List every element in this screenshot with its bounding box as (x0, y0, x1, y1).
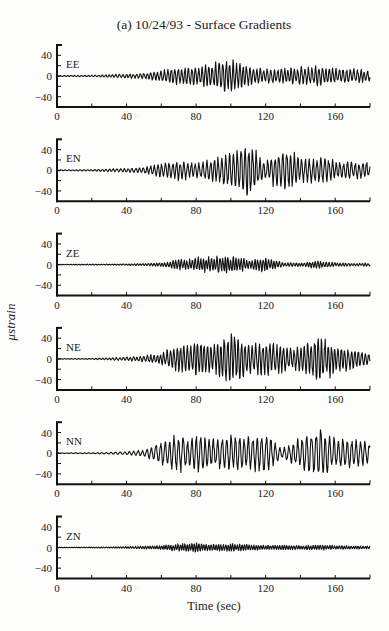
y-tick-label: 40 (41, 238, 53, 250)
y-tick-label: −40 (35, 562, 53, 574)
y-tick-label: 40 (41, 427, 53, 439)
x-tick-label: 120 (257, 487, 274, 499)
series-line-en (57, 148, 370, 195)
y-tick-label: 0 (47, 70, 53, 82)
panels: 400−4004080120160EE400−4004080120160EN40… (35, 45, 370, 594)
chart-title: (a) 10/24/93 - Surface Gradients (117, 17, 292, 32)
y-tick-label: 40 (41, 49, 53, 61)
x-tick-label: 120 (257, 299, 274, 311)
x-tick-label: 160 (327, 582, 344, 594)
panel-nn: 400−4004080120160NN (35, 422, 370, 499)
series-label: NE (66, 341, 81, 353)
x-tick-label: 120 (257, 393, 274, 405)
x-tick-label: 80 (191, 582, 203, 594)
y-tick-label: 0 (47, 447, 53, 459)
x-tick-label: 0 (54, 487, 60, 499)
x-tick-label: 160 (327, 110, 344, 122)
x-tick-label: 80 (191, 299, 203, 311)
y-tick-label: 40 (41, 521, 53, 533)
x-tick-label: 80 (191, 393, 203, 405)
x-tick-label: 160 (327, 487, 344, 499)
x-tick-label: 80 (191, 487, 203, 499)
y-tick-label: 0 (47, 353, 53, 365)
y-tick-label: 40 (41, 144, 53, 156)
x-tick-label: 40 (121, 110, 133, 122)
figure: (a) 10/24/93 - Surface Gradients μstrain… (0, 0, 389, 631)
x-tick-label: 0 (54, 393, 60, 405)
series-label: ZE (66, 247, 80, 259)
x-tick-label: 0 (54, 299, 60, 311)
x-tick-label: 0 (54, 204, 60, 216)
series-line-ee (57, 60, 370, 91)
y-tick-label: 40 (41, 332, 53, 344)
series-line-ze (57, 256, 370, 273)
series-line-ne (57, 334, 370, 381)
series-label: EN (66, 152, 81, 164)
panel-ze: 400−4004080120160ZE (35, 234, 370, 311)
x-tick-label: 40 (121, 582, 133, 594)
x-tick-label: 0 (54, 582, 60, 594)
series-label: NN (66, 435, 82, 447)
y-tick-label: −40 (35, 91, 53, 103)
panel-ee: 400−4004080120160EE (35, 45, 370, 122)
x-tick-label: 80 (191, 204, 203, 216)
x-tick-label: 160 (327, 204, 344, 216)
x-axis-label: Time (sec) (187, 599, 240, 613)
x-tick-label: 40 (121, 487, 133, 499)
series-label: EE (66, 58, 80, 70)
x-tick-label: 120 (257, 204, 274, 216)
y-tick-label: −40 (35, 185, 53, 197)
x-tick-label: 80 (191, 110, 203, 122)
series-line-zn (57, 543, 370, 552)
y-axis-label: μstrain (3, 304, 18, 342)
x-tick-label: 0 (54, 110, 60, 122)
x-tick-label: 40 (121, 299, 133, 311)
x-tick-label: 40 (121, 393, 133, 405)
x-tick-label: 160 (327, 393, 344, 405)
x-tick-label: 40 (121, 204, 133, 216)
panel-ne: 400−4004080120160NE (35, 328, 370, 405)
panel-en: 400−4004080120160EN (35, 139, 370, 216)
x-tick-label: 120 (257, 110, 274, 122)
y-tick-label: 0 (47, 259, 53, 271)
panel-zn: 400−4004080120160ZN (35, 517, 370, 594)
y-tick-label: 0 (47, 542, 53, 554)
x-tick-label: 120 (257, 582, 274, 594)
y-tick-label: 0 (47, 164, 53, 176)
x-tick-label: 160 (327, 299, 344, 311)
y-tick-label: −40 (35, 468, 53, 480)
y-tick-label: −40 (35, 374, 53, 386)
series-line-nn (57, 430, 370, 473)
series-label: ZN (66, 530, 81, 542)
y-tick-label: −40 (35, 279, 53, 291)
